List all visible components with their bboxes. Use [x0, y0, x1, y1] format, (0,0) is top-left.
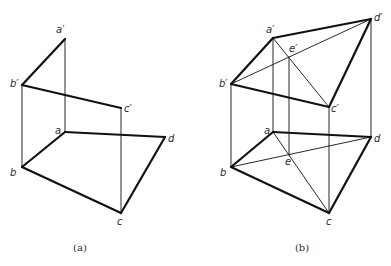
- figure-a: a′b′c′abcd (a): [10, 24, 175, 253]
- thick-edge: [22, 85, 121, 108]
- thick-edge: [329, 19, 371, 107]
- thick-edge: [22, 39, 65, 85]
- thick-edge: [22, 132, 65, 167]
- point-label: c: [326, 216, 332, 227]
- point-label: a′: [56, 24, 65, 35]
- point-label: b′: [10, 78, 19, 89]
- point-label: a′: [266, 24, 275, 35]
- point-label: a: [264, 125, 270, 136]
- thick-edge: [231, 167, 329, 213]
- figure-a-caption: (a): [73, 242, 87, 253]
- thick-edge: [231, 38, 273, 84]
- point-label: b: [220, 167, 226, 178]
- thick-edge: [121, 137, 165, 213]
- point-label: b: [10, 167, 16, 178]
- point-label: d: [374, 133, 381, 144]
- thick-edge: [65, 132, 165, 137]
- point-label: e′: [289, 43, 298, 54]
- thick-edge: [273, 19, 371, 38]
- thick-edge: [231, 84, 329, 107]
- thick-edge: [273, 132, 371, 137]
- point-label: d: [168, 133, 175, 144]
- thin-edge: [231, 137, 371, 167]
- projection-diagram: a′b′c′abcd (a) a′b′c′d′e′abcde (b): [0, 0, 391, 266]
- thick-edge: [329, 137, 371, 213]
- point-label: c′: [331, 103, 339, 114]
- point-label: d′: [374, 12, 383, 23]
- point-label: a: [55, 125, 61, 136]
- point-label: c′: [124, 103, 132, 114]
- figure-b-caption: (b): [295, 242, 309, 253]
- figure-a-point-labels: a′b′c′abcd: [10, 24, 175, 227]
- point-label: b′: [219, 78, 228, 89]
- point-label: e: [285, 156, 291, 167]
- thick-edge: [231, 132, 273, 167]
- figure-a-edges: [22, 39, 165, 213]
- thick-edge: [22, 167, 121, 213]
- figure-b-edges: [231, 19, 371, 213]
- figure-b: a′b′c′d′e′abcde (b): [219, 12, 383, 253]
- thin-edge: [231, 19, 371, 84]
- point-label: c: [117, 216, 123, 227]
